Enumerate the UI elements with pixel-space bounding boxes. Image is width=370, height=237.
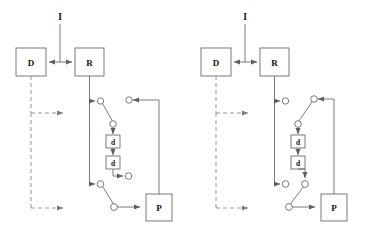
box-R-label: R [86,58,93,68]
switch-lower-terminal-right[interactable] [302,181,309,188]
switch-upper-terminal-left[interactable] [97,98,103,104]
switch-lower-terminal-right[interactable] [125,173,132,180]
switch-lower-terminal-bottom[interactable] [286,204,293,211]
switch-lower-terminal-left[interactable] [97,181,104,188]
box-D-label: D [213,58,220,68]
box-P-label: P [156,203,162,213]
input-label-I: I [58,12,62,22]
input-label-I: I [243,12,247,22]
switch-upper-terminal-right[interactable] [311,96,318,103]
switch-upper-terminal-right[interactable] [126,97,132,103]
figure-svg: I D R d d [0,0,370,237]
switch-upper-terminal-left[interactable] [282,98,288,104]
switch-lower-terminal-bottom[interactable] [111,204,118,211]
box-D-label: D [28,58,35,68]
box-P-label: P [331,203,337,213]
switch-lower-terminal-left[interactable] [282,181,289,188]
diagram-canvas: I D R d d [0,0,370,237]
switch-upper-terminal-middle[interactable] [110,121,117,128]
background [0,0,370,237]
switch-upper-terminal-middle[interactable] [295,121,302,128]
box-R-label: R [271,58,278,68]
